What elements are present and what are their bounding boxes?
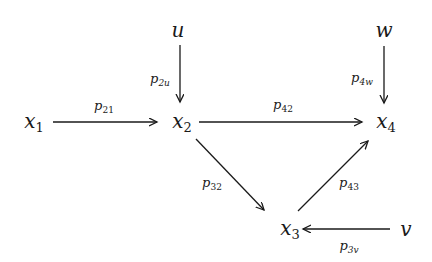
node-w: w	[375, 20, 392, 40]
node-x4: x4	[376, 111, 396, 134]
label-p32: p32	[202, 176, 222, 192]
node-u: u	[172, 20, 185, 40]
label-p42: p42	[273, 98, 293, 114]
node-x3: x3	[280, 218, 300, 241]
node-x2: x2	[172, 111, 192, 134]
diagram-canvas	[0, 0, 432, 262]
label-p2u: p2u	[150, 72, 170, 88]
label-p3v: p3v	[339, 239, 358, 255]
label-p21: p21	[94, 99, 114, 115]
label-p4w: p4w	[351, 71, 373, 87]
node-x1: x1	[24, 111, 44, 134]
node-v: v	[400, 219, 411, 239]
label-p43: p43	[339, 176, 359, 192]
